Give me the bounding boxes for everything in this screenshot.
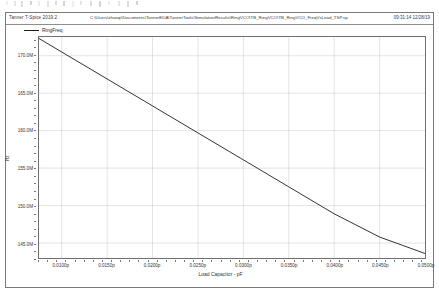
x-axis-ticks: 0.0100p0.0150p0.0200p0.0250p0.0300p0.035… xyxy=(38,260,426,270)
y-axis-ticks: 170.0M165.0M160.0M155.0M150.0M145.0M xyxy=(6,36,36,259)
x-minor-tick xyxy=(221,260,222,262)
y-tick-label: 150.0M xyxy=(18,204,33,209)
scan-speckle xyxy=(21,1,23,7)
y-minor-tick xyxy=(34,161,36,162)
x-tick-label: 0.0300p xyxy=(235,263,252,268)
x-minor-tick xyxy=(47,260,48,262)
scan-speckle xyxy=(108,1,110,5)
x-tick-label: 0.0500p xyxy=(418,263,435,268)
y-minor-tick xyxy=(34,123,36,124)
y-minor-tick xyxy=(34,146,36,147)
x-minor-tick xyxy=(294,260,295,262)
x-minor-tick xyxy=(339,260,340,262)
y-minor-tick xyxy=(34,93,36,94)
y-minor-tick xyxy=(34,191,36,192)
y-tick-label: 145.0M xyxy=(18,241,33,246)
chart-plot-area[interactable] xyxy=(38,36,426,259)
x-minor-tick xyxy=(56,260,57,262)
x-minor-tick xyxy=(166,260,167,262)
x-minor-tick xyxy=(211,260,212,262)
x-minor-tick xyxy=(321,260,322,262)
x-minor-tick xyxy=(367,260,368,262)
x-minor-tick xyxy=(84,260,85,262)
y-minor-tick xyxy=(34,100,36,101)
legend[interactable]: RingFreq xyxy=(24,27,63,33)
x-minor-tick xyxy=(257,260,258,262)
legend-label: RingFreq xyxy=(42,27,63,33)
x-minor-tick xyxy=(75,260,76,262)
chart-series-ringfreq xyxy=(39,37,425,258)
x-minor-tick xyxy=(266,260,267,262)
app-title: Tanner T-Spice 2019.2 xyxy=(9,15,57,20)
y-minor-tick xyxy=(34,244,36,245)
x-minor-tick xyxy=(421,260,422,262)
x-minor-tick xyxy=(284,260,285,262)
x-tick-label: 0.0100p xyxy=(53,263,70,268)
x-minor-tick xyxy=(385,260,386,262)
x-minor-tick xyxy=(358,260,359,262)
y-minor-tick xyxy=(34,199,36,200)
plot-window: Tanner T-Spice 2019.2 C:\Users\zhaoqi\Do… xyxy=(5,12,434,288)
y-minor-tick xyxy=(34,62,36,63)
y-tick-label: 170.0M xyxy=(18,52,33,57)
x-minor-tick xyxy=(184,260,185,262)
x-minor-tick xyxy=(403,260,404,262)
scan-speckle xyxy=(80,1,82,5)
y-minor-tick xyxy=(34,168,36,169)
x-minor-tick xyxy=(412,260,413,262)
y-minor-tick xyxy=(34,70,36,71)
scan-speckle xyxy=(99,1,101,7)
scan-speckle xyxy=(55,1,57,5)
y-tick-label: 155.0M xyxy=(18,166,33,171)
x-tick-label: 0.0250p xyxy=(189,263,206,268)
y-minor-tick xyxy=(34,40,36,41)
x-minor-tick xyxy=(376,260,377,262)
y-minor-tick xyxy=(34,214,36,215)
y-minor-tick xyxy=(34,236,36,237)
y-tick-label: 160.0M xyxy=(18,128,33,133)
x-minor-tick xyxy=(348,260,349,262)
y-minor-tick xyxy=(34,55,36,56)
y-minor-tick xyxy=(34,251,36,252)
y-minor-tick xyxy=(34,85,36,86)
scan-speckle xyxy=(38,1,40,6)
scan-speckle xyxy=(90,1,92,6)
timestamp: 09:31:14 12/28/19 xyxy=(394,15,430,20)
x-minor-tick xyxy=(239,260,240,262)
scan-speckle xyxy=(72,1,74,7)
x-minor-tick xyxy=(157,260,158,262)
scan-speckle xyxy=(30,1,32,5)
scan-speckle xyxy=(47,1,49,7)
y-minor-tick xyxy=(34,221,36,222)
x-minor-tick xyxy=(65,260,66,262)
x-minor-tick xyxy=(394,260,395,262)
y-minor-tick xyxy=(34,108,36,109)
y-minor-tick xyxy=(34,176,36,177)
x-minor-tick xyxy=(175,260,176,262)
x-minor-tick xyxy=(102,260,103,262)
x-minor-tick xyxy=(275,260,276,262)
x-minor-tick xyxy=(193,260,194,262)
scan-speckle xyxy=(136,1,138,5)
x-minor-tick xyxy=(312,260,313,262)
y-minor-tick xyxy=(34,229,36,230)
x-tick-label: 0.0450p xyxy=(372,263,389,268)
x-minor-tick xyxy=(38,260,39,262)
x-minor-tick xyxy=(111,260,112,262)
y-minor-tick xyxy=(34,206,36,207)
x-minor-tick xyxy=(230,260,231,262)
x-minor-tick xyxy=(138,260,139,262)
x-minor-tick xyxy=(248,260,249,262)
x-minor-tick xyxy=(330,260,331,262)
y-tick-label: 165.0M xyxy=(18,90,33,95)
x-minor-tick xyxy=(129,260,130,262)
legend-line-swatch xyxy=(24,30,39,31)
scan-speckle xyxy=(127,1,129,7)
x-tick-label: 0.0350p xyxy=(281,263,298,268)
y-minor-tick xyxy=(34,138,36,139)
y-minor-tick xyxy=(34,78,36,79)
y-minor-tick xyxy=(34,259,36,260)
x-tick-label: 0.0150p xyxy=(98,263,115,268)
x-minor-tick xyxy=(120,260,121,262)
scan-speckle xyxy=(118,1,120,6)
